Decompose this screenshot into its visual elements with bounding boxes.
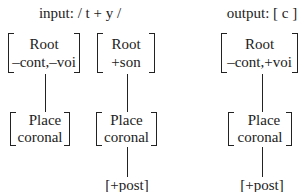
root-features: +son <box>97 53 155 71</box>
place-label: Place <box>96 111 157 129</box>
root-label: Root <box>221 35 298 53</box>
place-features: coronal <box>10 128 70 146</box>
association-line <box>45 74 46 112</box>
association-line <box>262 147 263 177</box>
root-features: –cont,+voi <box>221 53 298 71</box>
root-features: –cont,–voi <box>8 53 80 71</box>
output-place-node: Place coronal <box>228 112 292 146</box>
input-seg2-root-node: Root +son <box>97 33 155 73</box>
place-label: Place <box>228 111 292 129</box>
place-label: Place <box>10 111 70 129</box>
place-features: coronal <box>96 128 157 146</box>
association-line <box>262 74 263 112</box>
association-line <box>127 147 128 177</box>
input-seg1-place-node: Place coronal <box>10 112 70 146</box>
input-seg2-place-node: Place coronal <box>96 112 157 146</box>
post-feature: [+post] <box>105 178 148 192</box>
output-title: output: [ c ] <box>227 6 297 21</box>
root-label: Root <box>8 35 80 53</box>
output-root-node: Root –cont,+voi <box>221 33 298 73</box>
input-seg1-root-node: Root –cont,–voi <box>8 33 80 73</box>
post-feature: [+post] <box>240 178 283 192</box>
input-title: input: / t + y / <box>39 6 121 21</box>
association-line <box>127 74 128 112</box>
place-features: coronal <box>228 128 292 146</box>
root-label: Root <box>97 35 155 53</box>
